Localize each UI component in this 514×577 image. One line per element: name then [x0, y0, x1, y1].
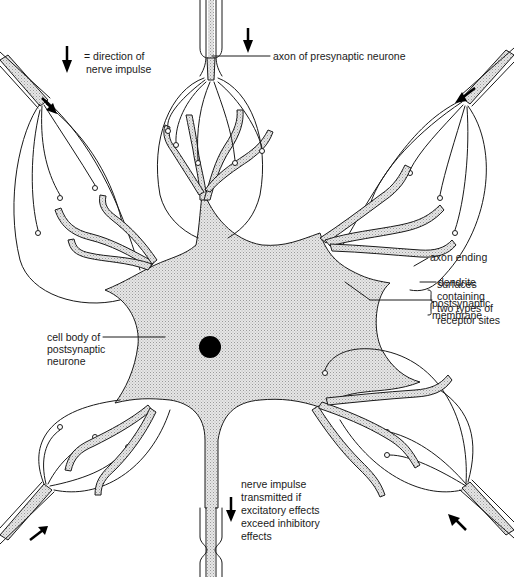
- dendrite-upper-left: [55, 195, 157, 270]
- dendrite-top: [164, 110, 273, 200]
- neurone-synapse-diagram: = direction of nerve impulse axon of pre…: [0, 0, 514, 577]
- dendrite-lower-left: [65, 405, 156, 495]
- arrow-top-icon: [243, 28, 253, 53]
- legend-text-line1: = direction of: [84, 50, 144, 63]
- arrow-lower-right-icon: [448, 514, 466, 530]
- leader-axon-ending: [414, 258, 428, 266]
- axon-top: [200, 0, 222, 80]
- axon-upper-left: [0, 52, 140, 303]
- arrow-legend-icon: [62, 46, 72, 73]
- label-axon-presynaptic: axon of presynaptic neurone: [273, 50, 406, 63]
- arrow-output-icon: [226, 497, 236, 522]
- nucleus: [199, 336, 221, 358]
- dendrite-upper-right: [320, 165, 456, 257]
- label-axon-ending: axon ending: [430, 251, 487, 264]
- axon-output-bottom: [200, 500, 222, 577]
- legend-text-line2: nerve impulse: [86, 63, 151, 76]
- arrow-lower-left-icon: [30, 526, 48, 540]
